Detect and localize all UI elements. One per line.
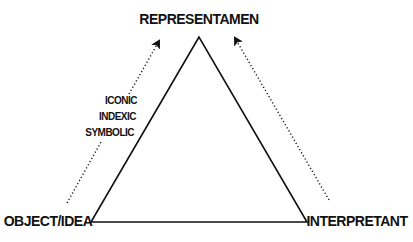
mode-label-indexic: INDEXIC bbox=[99, 111, 136, 122]
interpretant-label: INTERPRETANT bbox=[306, 213, 408, 229]
mode-label-symbolic: SYMBOLIC bbox=[85, 127, 134, 138]
right-arrow bbox=[235, 38, 329, 200]
semiotic-triangle-diagram: REPRESENTAMEN OBJECT/IDEA INTERPRETANT I… bbox=[0, 0, 413, 242]
object-idea-label: OBJECT/IDEA bbox=[4, 213, 93, 229]
left-arrow-lower-segment bbox=[67, 142, 101, 203]
mode-label-iconic: ICONIC bbox=[105, 95, 137, 106]
representamen-label: REPRESENTAMEN bbox=[139, 11, 259, 27]
left-arrow-upper-segment bbox=[129, 41, 159, 94]
